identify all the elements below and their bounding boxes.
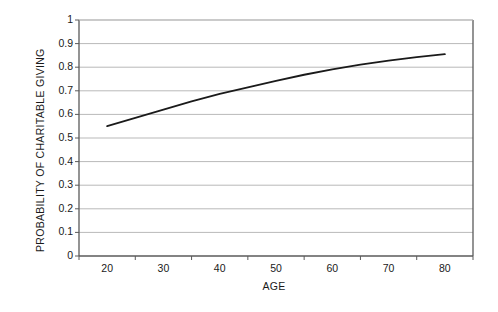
y-tick-label: 1	[39, 13, 73, 25]
y-tick-label: 0.2	[39, 202, 73, 214]
x-tick-label: 60	[307, 262, 357, 274]
x-axis-title: AGE	[25, 280, 498, 292]
y-tick-label: 0.7	[39, 84, 73, 96]
y-tick-label: 0.4	[39, 155, 73, 167]
y-tick-label: 0.8	[39, 60, 73, 72]
y-tick-label: 0.9	[39, 37, 73, 49]
x-tick-label: 70	[364, 262, 414, 274]
y-axis-title: PROBABILITY OF CHARITABLE GIVING	[34, 48, 46, 252]
x-tick-label: 20	[82, 262, 132, 274]
y-tick-label: 0.6	[39, 107, 73, 119]
y-tick-label: 0.1	[39, 225, 73, 237]
chart-figure: PROBABILITY OF CHARITABLE GIVING AGE 00.…	[0, 0, 498, 312]
x-tick-label: 50	[251, 262, 301, 274]
y-tick-label: 0.3	[39, 178, 73, 190]
x-tick-label: 30	[138, 262, 188, 274]
y-tick-label: 0.5	[39, 131, 73, 143]
x-tick-label: 80	[420, 262, 470, 274]
x-tick-label: 40	[195, 262, 245, 274]
y-tick-label: 0	[39, 249, 73, 261]
